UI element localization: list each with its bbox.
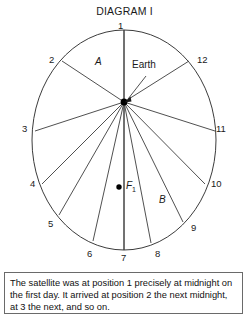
radius-line-10 xyxy=(124,102,205,184)
position-label-4: 4 xyxy=(30,179,35,189)
focus-f1-dot xyxy=(116,184,121,189)
caption-box: The satellite was at position 1 precisel… xyxy=(4,272,243,314)
orbit-diagram-svg xyxy=(0,0,249,270)
earth-label: Earth xyxy=(132,60,156,70)
radius-line-8 xyxy=(124,102,151,243)
position-label-3: 3 xyxy=(22,124,27,134)
radius-line-2 xyxy=(62,61,124,102)
radius-line-4 xyxy=(42,102,124,184)
position-label-9: 9 xyxy=(191,223,196,233)
position-label-5: 5 xyxy=(48,219,53,229)
radius-line-3 xyxy=(35,102,124,131)
radius-line-5 xyxy=(59,102,124,215)
focus-f1-label: F1 xyxy=(126,181,136,193)
position-label-1: 1 xyxy=(118,21,123,31)
radius-line-11 xyxy=(124,102,215,131)
caption-text: The satellite was at position 1 precisel… xyxy=(10,277,237,314)
radius-lines-group xyxy=(35,30,215,250)
region-a-label: A xyxy=(95,57,102,67)
earth-leader-line xyxy=(128,76,146,99)
position-label-2: 2 xyxy=(49,55,54,65)
position-label-8: 8 xyxy=(155,249,160,259)
position-label-6: 6 xyxy=(87,249,92,259)
position-label-7: 7 xyxy=(121,253,126,263)
position-label-10: 10 xyxy=(211,179,222,189)
region-b-label: B xyxy=(159,195,166,205)
position-label-11: 11 xyxy=(216,124,226,134)
diagram-figure: DIAGRAM I Earth F1 xyxy=(0,0,249,321)
radius-line-9 xyxy=(124,102,183,222)
focus-f1-subscript: 1 xyxy=(132,186,136,193)
position-label-12: 12 xyxy=(197,55,208,65)
radius-line-6 xyxy=(93,102,124,241)
